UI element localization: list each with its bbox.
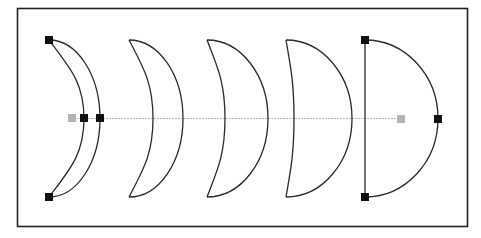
center-point-handle[interactable] bbox=[68, 114, 76, 122]
anchor-point-handle[interactable] bbox=[434, 115, 442, 123]
anchor-point-handle[interactable] bbox=[361, 36, 369, 44]
anchor-point-handle[interactable] bbox=[45, 36, 53, 44]
crescent-to-half-circle-diagram bbox=[0, 0, 481, 238]
anchor-point-handle[interactable] bbox=[80, 114, 88, 122]
anchor-point-handle[interactable] bbox=[361, 193, 369, 201]
anchor-point-handle[interactable] bbox=[96, 114, 104, 122]
center-point-handle[interactable] bbox=[397, 115, 405, 123]
anchor-point-handle[interactable] bbox=[45, 193, 53, 201]
